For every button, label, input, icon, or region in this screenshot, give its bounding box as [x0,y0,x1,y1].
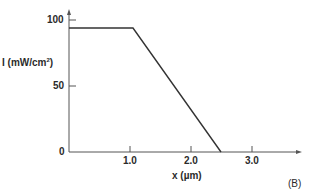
chart-canvas [0,0,313,194]
panel-label: (B) [288,178,301,189]
intensity-line [69,28,221,152]
y-tick-label-100: 100 [47,14,64,25]
x-axis-arrow-icon [296,150,302,154]
y-tick-label-50: 50 [53,80,64,91]
x-tick-label-2: 2.0 [184,155,198,166]
y-axis-arrow-icon [67,9,71,15]
y-tick-label-0: 0 [59,146,65,157]
x-tick-label-3: 3.0 [245,155,259,166]
x-axis-label: x (µm) [172,170,202,181]
y-axis-label: I (mW/cm2) [2,57,53,68]
x-tick-label-1: 1.0 [123,155,137,166]
